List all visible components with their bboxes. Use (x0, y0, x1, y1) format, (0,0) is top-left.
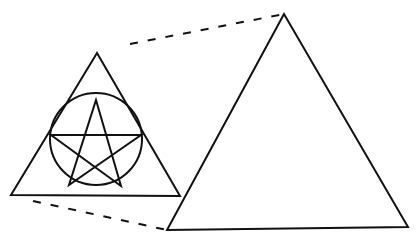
diagram-canvas (0, 0, 417, 240)
small-triangle (11, 53, 180, 196)
inscribed-circle (50, 93, 142, 185)
large-triangle (167, 14, 408, 230)
projection-line-top (130, 14, 284, 44)
projection-line-bottom (33, 201, 167, 230)
